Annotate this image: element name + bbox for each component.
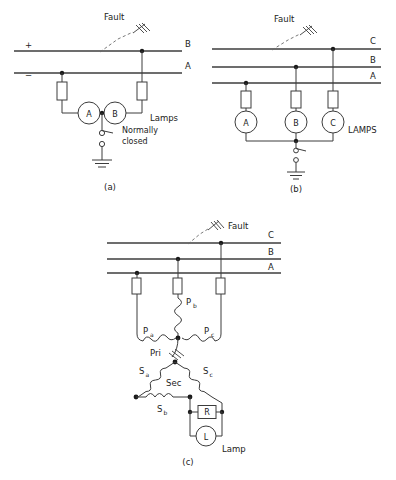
panel-c-neutral-lead — [172, 338, 178, 357]
panel-a-resistor-left — [57, 82, 67, 100]
svg-text:P: P — [186, 297, 191, 307]
panel-a: B A + − Fault A B Lam — [14, 12, 191, 192]
panel-b-bus-label-C: C — [370, 36, 376, 46]
panel-a-bus-label-B: B — [185, 39, 191, 49]
panel-b-lamps-label: LAMPS — [348, 125, 377, 135]
panel-c-label-Pa: P a — [143, 326, 154, 338]
svg-text:a: a — [146, 371, 150, 378]
panel-c: C B A Fault — [107, 220, 281, 467]
svg-text:S: S — [139, 366, 144, 376]
panel-b-bus-label-A: A — [370, 71, 376, 81]
panel-a-polarity-plus: + — [25, 40, 32, 50]
panel-a-caption: (a) — [104, 182, 116, 192]
panel-c-label-Pc: P c — [204, 326, 214, 338]
panel-a-meter-A-label: A — [86, 110, 92, 119]
svg-text:c: c — [210, 371, 213, 378]
panel-c-label-Sc: S c — [203, 366, 213, 378]
panel-a-bus-label-A: A — [185, 61, 191, 71]
svg-text:b: b — [164, 409, 168, 416]
panel-c-bus-label-B: B — [268, 247, 274, 257]
svg-text:a: a — [150, 331, 154, 338]
panel-c-coil-Sb — [146, 394, 173, 398]
panel-c-coil-Pb — [175, 298, 182, 333]
panel-c-fuse-A — [132, 278, 141, 294]
panel-b-switch-contact-bottom — [294, 158, 299, 163]
svg-text:c: c — [211, 331, 214, 338]
schematic-svg: B A + − Fault A B Lam — [0, 0, 396, 480]
panel-c-secondary-label: Sec — [166, 378, 182, 388]
panel-c-bus-label-A: A — [268, 262, 274, 272]
panel-c-label-Sa: S a — [139, 366, 150, 378]
panel-c-lead-C-bend — [215, 334, 221, 341]
panel-c-resistor-label: R — [204, 408, 210, 417]
panel-a-switch-label-2: closed — [122, 137, 148, 146]
panel-b-resistor-A — [241, 91, 251, 108]
svg-text:P: P — [143, 326, 148, 336]
panel-b-meter-C-label: C — [330, 119, 336, 128]
panel-a-polarity-minus: − — [25, 70, 32, 80]
panel-a-fault-icon — [133, 23, 150, 33]
panel-a-fault-leader — [100, 32, 133, 52]
svg-text:P: P — [204, 326, 209, 336]
panel-c-lamp-meter-label: L — [204, 433, 209, 442]
figure-canvas: B A + − Fault A B Lam — [0, 0, 396, 480]
panel-b-caption: (b) — [290, 184, 302, 194]
panel-c-fuse-C — [216, 278, 225, 294]
panel-c-fuse-B — [173, 278, 182, 294]
panel-a-fault-label: Fault — [104, 12, 125, 22]
panel-c-bus-label-C: C — [268, 230, 274, 240]
panel-c-primary-ground-icon — [169, 349, 184, 360]
panel-c-fault-label: Fault — [228, 221, 249, 231]
panel-b-bus-label-B: B — [370, 55, 376, 65]
panel-a-switch-label-1: Normally — [122, 126, 158, 135]
panel-a-switch-contact-bottom — [99, 141, 104, 146]
panel-a-resistor-right — [137, 82, 147, 100]
panel-b-meter-A-label: A — [243, 119, 249, 128]
svg-text:S: S — [157, 404, 162, 414]
panel-c-fault-icon — [208, 220, 224, 230]
panel-c-caption: (c) — [182, 457, 193, 467]
svg-text:b: b — [193, 302, 197, 309]
panel-b-resistor-C — [328, 91, 338, 108]
panel-a-ground-icon — [92, 160, 112, 167]
panel-b-fault-icon — [300, 25, 317, 35]
panel-c-sc-to-right-rail — [212, 397, 222, 403]
panel-a-lamps-label: Lamps — [150, 113, 179, 123]
panel-b-resistor-B — [291, 91, 301, 108]
svg-text:S: S — [203, 366, 208, 376]
panel-b-meter-B-label: B — [293, 119, 299, 128]
panel-b-ground-icon — [287, 172, 305, 179]
panel-b-fault-leader — [272, 34, 300, 50]
panel-c-lamp-label: Lamp — [222, 444, 246, 454]
panel-a-meter-B-label: B — [112, 110, 118, 119]
panel-b: C B A Fault A B C — [212, 14, 381, 194]
panel-c-primary-label: Pri — [150, 348, 161, 358]
panel-b-fault-label: Fault — [274, 14, 295, 24]
panel-c-label-Sb: S b — [157, 404, 168, 416]
panel-c-fault-leader — [188, 229, 208, 244]
panel-c-label-Pb: P b — [186, 297, 197, 309]
